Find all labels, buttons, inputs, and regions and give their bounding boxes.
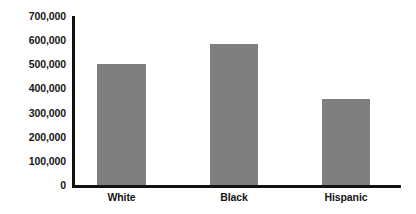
y-axis-tick-label: 300,000 <box>0 107 66 118</box>
y-axis-tick-label: 100,000 <box>0 155 66 166</box>
x-axis-label-white: White <box>107 191 135 204</box>
bar-black <box>210 44 258 185</box>
plot-area <box>75 16 401 185</box>
x-axis-label-hispanic: Hispanic <box>325 191 368 204</box>
x-axis-line <box>72 185 401 188</box>
bar-hispanic <box>322 99 370 185</box>
y-axis-tick-label: 0 <box>0 180 66 191</box>
y-axis-tick-label: 700,000 <box>0 11 66 22</box>
y-axis-tick-label: 500,000 <box>0 59 66 70</box>
bar-white <box>97 64 146 185</box>
y-axis-tick-labels: 700,000 600,000 500,000 400,000 300,000 … <box>0 0 66 214</box>
bar-chart: 700,000 600,000 500,000 400,000 300,000 … <box>0 0 416 214</box>
x-axis-category-labels: White Black Hispanic <box>75 191 401 211</box>
y-axis-tick-label: 200,000 <box>0 131 66 142</box>
y-axis-tick-label: 400,000 <box>0 83 66 94</box>
x-axis-label-black: Black <box>220 191 248 204</box>
y-axis-tick-label: 600,000 <box>0 35 66 46</box>
